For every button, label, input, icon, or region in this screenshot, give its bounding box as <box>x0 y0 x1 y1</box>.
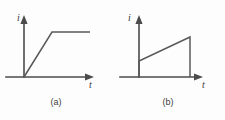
waveform-figure: i t (a) i t (b) <box>0 0 225 120</box>
waveform-trace-b <box>139 37 190 77</box>
y-axis-label-a: i <box>17 13 20 23</box>
y-axis-arrow-icon-a <box>20 15 27 24</box>
x-axis-label-a: t <box>89 80 92 90</box>
panel-b: i t (b) <box>112 0 224 120</box>
panel-a-caption: (a) <box>0 98 112 107</box>
waveform-trace-a <box>24 32 90 77</box>
y-axis-label-b: i <box>128 13 131 23</box>
panel-a: i t (a) <box>0 0 112 120</box>
panel-b-caption: (b) <box>112 98 224 107</box>
x-axis-label-b: t <box>202 80 205 90</box>
y-axis-arrow-icon-b <box>135 15 142 24</box>
